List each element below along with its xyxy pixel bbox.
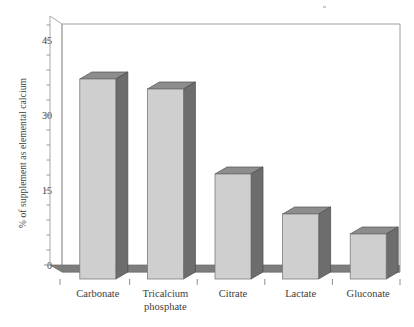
bar-chart: % of supplement as elemental calcium 015…: [0, 0, 414, 327]
bar-front-face: [80, 79, 116, 279]
x-tick-label-5: Gluconate: [347, 288, 390, 301]
bar-side-face: [116, 72, 128, 279]
bar-front-face: [147, 89, 183, 279]
bar-side-face: [183, 82, 195, 279]
x-tick-label-2: Tricalcium phosphate: [143, 288, 189, 313]
bar-5: [350, 227, 398, 279]
bar-4: [283, 207, 331, 279]
x-tick-label-4: Lactate: [285, 288, 316, 301]
bar-2: [147, 82, 195, 279]
bar-front-face: [215, 174, 251, 279]
bar-front-face: [350, 234, 386, 279]
x-tick-label-1: Carbonate: [76, 288, 119, 301]
frame-depth-top-edge: [50, 16, 62, 24]
top-speck-mark: [323, 6, 326, 8]
bar-side-face: [319, 207, 331, 279]
x-tick-label-3: Citrate: [219, 288, 248, 301]
bar-side-face: [251, 167, 263, 279]
bar-front-face: [283, 214, 319, 279]
y-axis-ticks: [44, 25, 50, 265]
plot-area: [0, 0, 414, 327]
bar-1: [80, 72, 128, 279]
bar-3: [215, 167, 263, 279]
bar-side-face: [386, 227, 398, 279]
x-axis-tick-labels: CarbonateTricalcium phosphateCitrateLact…: [0, 283, 414, 327]
